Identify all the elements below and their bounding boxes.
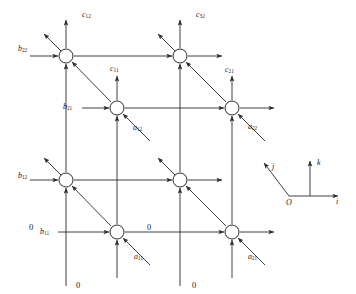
axis-label-j: j [272, 163, 274, 171]
label-a12: a12 [133, 124, 142, 132]
label-b11: b11 [40, 228, 49, 236]
label-c12: c12 [82, 11, 91, 19]
label-a21: a21 [248, 253, 257, 261]
label-zero-bottom-left: 0 [76, 281, 80, 290]
node-front-bottom-left [110, 225, 124, 239]
label-c11: c11 [110, 65, 119, 73]
processing-nodes [59, 49, 239, 239]
axis-label-k: k [317, 159, 321, 167]
label-zero-mid-bottom: 0 [147, 223, 151, 232]
label-zero-bottom-right: 0 [192, 281, 196, 290]
node-front-top-right [225, 101, 239, 115]
label-zero-left: 0 [29, 223, 33, 232]
label-b22: b22 [18, 45, 27, 53]
axis-legend-arrows [264, 161, 338, 196]
label-a22: a22 [248, 123, 257, 131]
axis-label-i: i [336, 198, 338, 206]
node-front-top-left [110, 101, 124, 115]
label-c21: c21 [225, 66, 234, 74]
node-front-bottom-right [225, 225, 239, 239]
node-back-bottom-left [59, 173, 73, 187]
node-back-top-left [59, 49, 73, 63]
j-axis-arrow [264, 163, 289, 196]
label-b21: b21 [63, 103, 72, 111]
label-c32: c32 [196, 11, 205, 19]
systolic-array-figure: c12 c32 c11 c21 b22 b21 b12 b11 a12 a22 … [0, 0, 356, 294]
label-a11: a11 [134, 253, 143, 261]
node-back-bottom-right [173, 173, 187, 187]
axis-label-origin: O [286, 199, 292, 207]
label-b12: b12 [18, 172, 27, 180]
lattice-svg [0, 0, 356, 294]
node-back-top-right [173, 49, 187, 63]
